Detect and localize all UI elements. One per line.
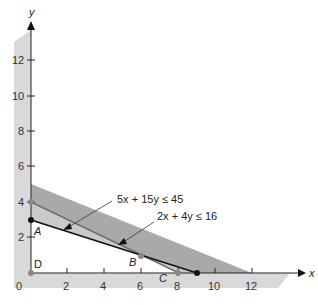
label-a: A [33, 225, 41, 237]
feasible-region-chart: 0 2 4 6 8 10 12 2 4 6 8 10 12 y x A B C … [0, 0, 318, 305]
y-tick-12: 12 [12, 54, 24, 66]
point-c [175, 270, 181, 276]
x-tick-10: 10 [208, 280, 220, 292]
x-tick-2: 2 [63, 280, 69, 292]
y-tick-10: 10 [12, 90, 24, 102]
y-tick-4: 4 [18, 196, 24, 208]
x-axis-label: x [308, 267, 315, 279]
x-tick-4: 4 [100, 280, 106, 292]
label-c: C [159, 272, 167, 284]
point-y4 [28, 199, 34, 205]
label-b: B [129, 256, 136, 268]
y-axis-arrow-icon [27, 21, 35, 30]
y-tick-8: 8 [18, 125, 24, 137]
x-tick-6: 6 [137, 280, 143, 292]
x-tick-8: 8 [174, 280, 180, 292]
point-a [28, 217, 34, 223]
y-tick-2: 2 [18, 231, 24, 243]
origin-label: 0 [16, 280, 22, 292]
label-d: D [34, 258, 42, 270]
constraint2-label: 2x + 4y ≤ 16 [157, 210, 217, 222]
x-tick-12: 12 [245, 280, 257, 292]
constraint1-label: 5x + 15y ≤ 45 [117, 193, 183, 205]
point-d [28, 270, 34, 276]
point-x9 [194, 270, 200, 276]
x-axis-arrow-icon [298, 269, 306, 277]
point-b [138, 253, 144, 259]
y-axis-label: y [28, 6, 36, 18]
y-tick-6: 6 [18, 160, 24, 172]
